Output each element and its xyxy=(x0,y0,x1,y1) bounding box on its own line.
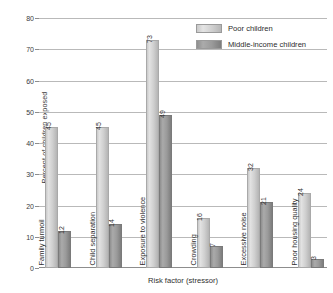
plot-area: 45Family turmoil1245Child separation1473… xyxy=(39,18,327,268)
y-axis-tick-label: 10 xyxy=(12,233,34,240)
bar-value-label: 3 xyxy=(310,256,317,260)
bar-value-label: 12 xyxy=(58,226,65,234)
bar-value-label: 32 xyxy=(247,163,254,171)
bar-middle: 3 xyxy=(311,259,324,268)
category-label: Excessive noise xyxy=(240,212,247,265)
y-axis-tick-label: 0 xyxy=(12,265,34,272)
x-axis-title: Risk factor (stressor) xyxy=(39,276,327,285)
bar-chart: Percent of children exposed 010203040506… xyxy=(0,0,333,293)
bar-group: 45Family turmoil12 xyxy=(45,18,71,268)
bar-middle: 12 xyxy=(58,231,71,269)
legend-swatch-icon xyxy=(196,40,222,49)
y-axis-tick-label: 60 xyxy=(12,77,34,84)
legend-label: Poor children xyxy=(228,24,273,33)
bar-groups: 45Family turmoil1245Child separation1473… xyxy=(39,18,327,268)
category-label: Exposure to violence xyxy=(139,196,146,265)
y-axis-tick-label: 20 xyxy=(12,202,34,209)
bar-poor: 73Exposure to violence xyxy=(146,40,159,268)
category-label: Poor housing quality xyxy=(291,198,298,265)
bar-poor: 45Family turmoil xyxy=(45,127,58,268)
legend-item-poor-children: Poor children xyxy=(196,24,306,33)
bar-value-label: 73 xyxy=(146,35,153,43)
bar-value-label: 21 xyxy=(260,197,267,205)
legend-item-middle-income-children: Middle-income children xyxy=(196,40,306,49)
bar-value-label: 49 xyxy=(159,110,166,118)
bar-value-label: 45 xyxy=(45,122,52,130)
bar-poor: 32Excessive noise xyxy=(247,168,260,268)
bar-value-label: 16 xyxy=(196,213,203,221)
y-axis-tick xyxy=(35,268,39,269)
bar-group: 24Poor housing quality3 xyxy=(298,18,324,268)
category-label: Child separation xyxy=(88,212,95,265)
category-label: Family turmoil xyxy=(38,219,45,265)
y-axis-tick-label: 30 xyxy=(12,171,34,178)
bar-poor: 16Crowding xyxy=(197,218,210,268)
bar-group: 32Excessive noise21 xyxy=(247,18,273,268)
y-axis-tick-label: 40 xyxy=(12,140,34,147)
bar-value-label: 24 xyxy=(297,188,304,196)
bar-value-label: 7 xyxy=(209,243,216,247)
bar-group: 45Child separation14 xyxy=(96,18,122,268)
y-axis-tick-labels: 01020304050607080 xyxy=(10,0,34,293)
bar-middle: 14 xyxy=(109,224,122,268)
category-label: Crowding xyxy=(189,234,196,265)
bar-value-label: 45 xyxy=(95,122,102,130)
bar-middle: 7 xyxy=(210,246,223,268)
bar-group: 73Exposure to violence49 xyxy=(146,18,172,268)
y-axis-tick-label: 50 xyxy=(12,108,34,115)
chart-legend: Poor children Middle-income children xyxy=(196,24,306,49)
bar-middle: 49 xyxy=(159,115,172,268)
y-axis-tick-label: 70 xyxy=(12,46,34,53)
bar-value-label: 14 xyxy=(108,219,115,227)
y-axis-tick-label: 80 xyxy=(12,15,34,22)
legend-label: Middle-income children xyxy=(228,40,306,49)
bar-poor: 45Child separation xyxy=(96,127,109,268)
legend-swatch-icon xyxy=(196,24,222,33)
bar-group: 16Crowding7 xyxy=(197,18,223,268)
bar-middle: 21 xyxy=(260,202,273,268)
